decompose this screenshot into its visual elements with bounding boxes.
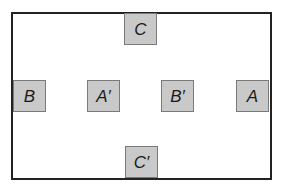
- box-c-prime-label: C′: [134, 154, 149, 171]
- box-c-prime: C′: [125, 146, 158, 178]
- box-b-label: B: [24, 88, 35, 105]
- box-a-label: A: [247, 88, 258, 105]
- box-a: A: [236, 80, 269, 112]
- box-a-prime: A′: [87, 80, 120, 112]
- box-b-prime: B′: [161, 80, 194, 112]
- box-b: B: [13, 80, 46, 112]
- box-b-prime-label: B′: [170, 88, 185, 105]
- box-c: C: [124, 13, 157, 45]
- box-c-label: C: [134, 21, 146, 38]
- box-a-prime-label: A′: [96, 88, 111, 105]
